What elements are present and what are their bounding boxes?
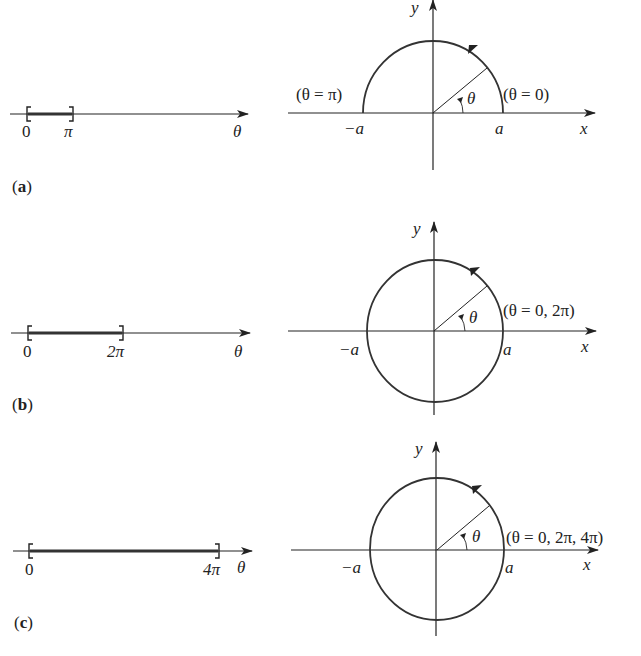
- circle-curve: [370, 478, 504, 620]
- radius-line: [434, 286, 487, 331]
- panel-label-a: (a): [12, 177, 32, 196]
- end-label: 2π: [107, 342, 125, 361]
- start-label: 0: [23, 342, 32, 361]
- theta-label: θ: [233, 122, 241, 141]
- pos-a-label: a: [505, 558, 514, 577]
- pos-a-label: a: [503, 340, 512, 359]
- plot-a: θ (θ = π) (θ = 0) −a a x y: [288, 0, 595, 170]
- theta-label: θ: [234, 342, 242, 361]
- direction-arrow: [470, 267, 480, 276]
- radius-line: [437, 506, 489, 550]
- number-line-c: 0 4π θ: [13, 544, 252, 579]
- theta-label: θ: [237, 558, 245, 577]
- x-axis-label: x: [579, 119, 588, 138]
- start-annotation: (θ = 0, 2π, 4π): [506, 528, 603, 547]
- angle-label: θ: [467, 89, 475, 108]
- panel-b: 0 2π θ (b) θ (θ = 0, 2π) −a a x y: [11, 219, 596, 415]
- angle-arrow-icon: [457, 97, 463, 103]
- panel-label-c: (c): [14, 613, 33, 632]
- end-label: 4π: [203, 560, 221, 579]
- panel-a: 0 π θ (a) θ (θ = π) (θ = 0) −a a x y: [10, 0, 595, 196]
- end-label: π: [64, 122, 73, 141]
- start-annotation: (θ = 0): [503, 85, 549, 104]
- y-axis-label: y: [413, 439, 423, 458]
- number-line-b: 0 2π θ: [11, 326, 250, 361]
- angle-arrow-icon: [458, 314, 464, 320]
- pos-a-label: a: [495, 119, 504, 138]
- panel-c: 0 4π θ (c) θ (θ = 0, 2π, 4π) −a a x y: [13, 439, 603, 636]
- radius-line: [433, 68, 487, 113]
- angle-label: θ: [469, 308, 477, 327]
- end-annotation: (θ = π): [296, 85, 342, 104]
- neg-a-label: −a: [339, 340, 359, 359]
- number-line-a: 0 π θ: [10, 107, 248, 141]
- start-label: 0: [25, 560, 34, 579]
- y-axis-label: y: [409, 0, 419, 17]
- plot-c: θ (θ = 0, 2π, 4π) −a a x y: [291, 439, 603, 636]
- start-annotation: (θ = 0, 2π): [503, 301, 575, 320]
- angle-label: θ: [472, 527, 480, 546]
- plot-b: θ (θ = 0, 2π) −a a x y: [288, 219, 596, 415]
- start-label: 0: [22, 122, 31, 141]
- panel-label-b: (b): [12, 395, 33, 414]
- parametrization-figure: 0 π θ (a) θ (θ = π) (θ = 0) −a a x y: [0, 0, 641, 656]
- neg-a-label: −a: [344, 119, 364, 138]
- x-axis-label: x: [580, 337, 589, 356]
- direction-arrow: [468, 45, 478, 54]
- angle-arrow-icon: [460, 533, 466, 539]
- y-axis-label: y: [411, 219, 421, 238]
- x-axis-label: x: [582, 555, 591, 574]
- neg-a-label: −a: [341, 558, 361, 577]
